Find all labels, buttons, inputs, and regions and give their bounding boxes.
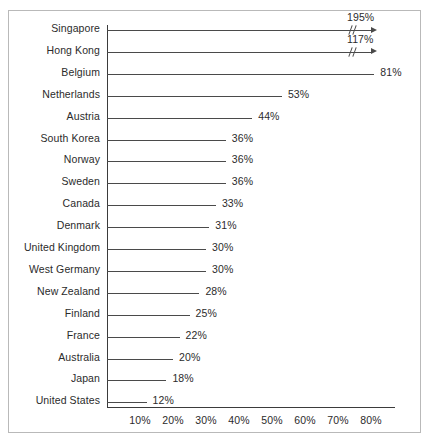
value-label: 20%: [179, 351, 200, 363]
x-tick-label: 70%: [327, 414, 348, 426]
series-line: [107, 140, 226, 141]
series-line: [107, 380, 166, 381]
series-line: [107, 183, 226, 184]
x-tick-label: 30%: [195, 414, 216, 426]
x-tick-label: 20%: [162, 414, 183, 426]
category-label: Australia: [58, 351, 100, 363]
category-label: Norway: [64, 153, 100, 165]
category-label: Belgium: [61, 66, 100, 78]
series-line: [107, 161, 226, 162]
value-label: 30%: [212, 263, 233, 275]
value-label: 117%: [347, 33, 373, 45]
value-label: 28%: [205, 285, 226, 297]
value-label: 25%: [196, 307, 217, 319]
horizontal-bar-chart: Singapore195%Hong Kong117%Belgium81%Neth…: [0, 0, 431, 443]
category-label: United States: [36, 394, 100, 406]
x-tick-label: 60%: [294, 414, 315, 426]
category-label: Japan: [71, 372, 100, 384]
category-label: Finland: [65, 307, 100, 319]
series-line: [107, 205, 216, 206]
value-label: 22%: [186, 329, 207, 341]
category-label: Canada: [63, 197, 100, 209]
category-label: New Zealand: [37, 285, 100, 297]
category-label: South Korea: [41, 132, 100, 144]
value-label: 31%: [215, 219, 236, 231]
arrow-head-icon: [371, 27, 377, 33]
series-line: [107, 52, 371, 53]
value-label: 33%: [222, 197, 243, 209]
x-tick-label: 80%: [360, 414, 381, 426]
series-line: [107, 337, 180, 338]
value-label: 36%: [232, 153, 253, 165]
category-label: Singapore: [51, 22, 100, 34]
series-line: [107, 271, 206, 272]
value-label: 81%: [380, 66, 401, 78]
series-line: [107, 315, 190, 316]
value-label: 195%: [347, 11, 374, 23]
series-line: [107, 96, 282, 97]
series-line: [107, 249, 206, 250]
category-label: Hong Kong: [47, 44, 100, 56]
value-label: 36%: [232, 132, 253, 144]
series-line: [107, 227, 209, 228]
series-line: [107, 293, 199, 294]
category-label: United Kingdom: [24, 241, 100, 253]
category-label: Sweden: [61, 175, 100, 187]
x-tick-label: 50%: [261, 414, 282, 426]
series-line: [107, 402, 147, 403]
x-tick-label: 40%: [228, 414, 249, 426]
category-label: Denmark: [57, 219, 100, 231]
value-label: 18%: [172, 372, 193, 384]
series-line: [107, 30, 371, 31]
arrow-head-icon: [371, 48, 377, 54]
value-label: 12%: [153, 394, 174, 406]
x-tick-label: 10%: [129, 414, 150, 426]
series-line: [107, 359, 173, 360]
category-label: Austria: [67, 110, 100, 122]
value-label: 53%: [288, 88, 309, 100]
category-label: Netherlands: [42, 88, 100, 100]
category-label: France: [67, 329, 100, 341]
plot-axes: [107, 25, 395, 408]
series-line: [107, 74, 374, 75]
value-label: 44%: [258, 110, 279, 122]
value-label: 30%: [212, 241, 233, 253]
value-label: 36%: [232, 175, 253, 187]
category-label: West Germany: [29, 263, 100, 275]
series-line: [107, 118, 252, 119]
